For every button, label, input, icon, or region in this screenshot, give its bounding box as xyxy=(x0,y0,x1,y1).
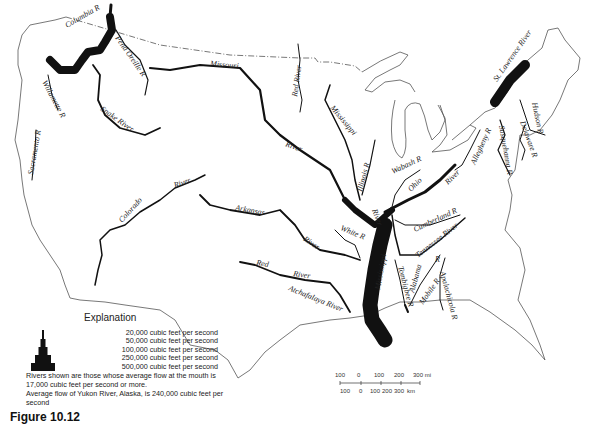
label-red: Red xyxy=(255,258,271,269)
label-red-river-north: Red River xyxy=(290,64,304,99)
scale-bar xyxy=(340,381,420,385)
label-mississippi-upper: Mississippi xyxy=(328,103,359,137)
legend-row-500000: 500,000 cubic feet per second xyxy=(60,363,218,371)
scale-mi-100: 100 xyxy=(374,372,384,378)
columbia-river xyxy=(50,17,112,70)
scale-km-200: 200 xyxy=(382,388,392,394)
label-missouri: Missouri xyxy=(209,59,239,71)
mississippi-upper xyxy=(325,85,360,200)
scale-km-100: 100 xyxy=(370,388,380,394)
label-arkansas: Arkansas xyxy=(234,203,266,217)
scale-km-0: 0 xyxy=(359,388,362,394)
scale-mi-0: 0 xyxy=(357,372,360,378)
label-colorado-river: River xyxy=(172,175,193,190)
label-wabash: Wabash R xyxy=(390,154,423,176)
label-apalachicola: Apalachicola R xyxy=(438,269,460,320)
colorado-river xyxy=(95,175,205,285)
label-ohio-river: River xyxy=(442,167,462,187)
legend-note-yukon: Average flow of Yukon River, Alaska, is … xyxy=(26,390,226,407)
columbia-upper xyxy=(110,5,111,17)
label-mobile: Mobile R xyxy=(417,277,442,307)
scale-mi-200: 200 xyxy=(394,372,404,378)
arkansas-river xyxy=(200,195,360,260)
label-hudson: Hudson R xyxy=(530,101,546,135)
legend-width-symbol xyxy=(31,330,55,371)
figure-label: Figure 10.12 xyxy=(10,410,80,424)
label-illinois: Illinois R xyxy=(355,162,372,194)
label-willamette: Willamette R xyxy=(40,79,67,120)
scale-km-unit: km xyxy=(407,388,415,394)
scale-km-300: 300 xyxy=(394,388,404,394)
label-susquehanna: Susquehanna R xyxy=(497,125,514,175)
scale-mi-300: 300 mi xyxy=(413,372,431,378)
scale-km-100w: 100 xyxy=(340,388,350,394)
legend-rows: 20,000 cubic feet per second 50,000 cubi… xyxy=(60,329,218,371)
legend-title: Explanation xyxy=(84,312,136,323)
legend-note-threshold: Rivers shown are those whose average flo… xyxy=(26,372,226,389)
label-snake: Snake River xyxy=(99,104,136,134)
scale-mi-100w: 100 xyxy=(335,372,345,378)
label-ohio: Ohio xyxy=(406,176,424,194)
label-alabama-r: R xyxy=(434,255,440,264)
label-atchafalaya: Atchafalaya River xyxy=(286,283,345,314)
label-sacramento: Sacramento R xyxy=(26,129,43,175)
